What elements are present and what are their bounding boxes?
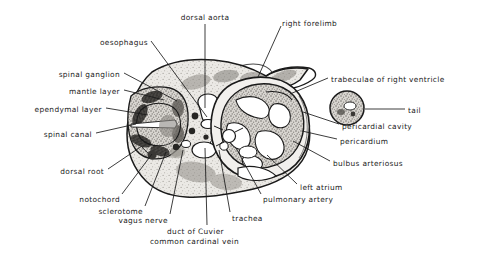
label-ependymal-layer: ependymal layer <box>35 106 102 114</box>
leader-line-left-atrium <box>267 155 297 184</box>
leader-line-spinal-canal <box>96 124 136 133</box>
leader-line-trachea <box>219 150 230 212</box>
label-trabeculae-of-right-ventricle: trabeculae of right ventricle <box>331 76 445 84</box>
leader-line-bulbus-arteriosus <box>293 141 330 161</box>
leader-line-trabeculae-of-right-ventricle <box>290 78 328 94</box>
label-spinal-canal: spinal canal <box>44 131 92 139</box>
label-vagus-nerve: vagus nerve <box>118 217 168 225</box>
leader-line-pulmonary-artery <box>236 148 261 194</box>
leader-line-right-forelimb <box>258 26 281 77</box>
leader-line-vagus-nerve <box>170 150 183 214</box>
leader-line-dorsal-root <box>108 146 142 169</box>
label-pulmonary-artery: pulmonary artery <box>263 196 333 204</box>
label-spinal-ganglion: spinal ganglion <box>59 71 120 79</box>
leader-line-duct-of-cuvier <box>205 148 207 225</box>
label-dorsal-root: dorsal root <box>60 168 104 176</box>
leader-line-sclerotome <box>145 152 166 206</box>
label-mantle-layer: mantle layer <box>69 88 120 96</box>
label-dorsal-aorta: dorsal aorta <box>181 14 230 22</box>
label-oesophagus: oesophagus <box>100 39 148 47</box>
leader-line-oesophagus <box>151 41 207 117</box>
label-sclerotome: sclerotome <box>98 208 143 216</box>
leader-line-mantle-layer <box>124 90 164 100</box>
label-pericardial-cavity: pericardial cavity <box>342 123 412 131</box>
leader-line-notochord <box>122 154 152 194</box>
leader-line-pericardial-cavity <box>303 112 339 124</box>
label-trachea: trachea <box>232 215 263 223</box>
label-pericardium: pericardium <box>340 138 388 146</box>
label-bulbus-arteriosus: bulbus arteriosus <box>333 160 403 168</box>
label-duct-of-cuvier: duct of Cuvier <box>167 228 224 236</box>
leader-line-pericardium <box>302 131 337 139</box>
label-left-atrium: left atrium <box>300 184 343 192</box>
embryo-section-figure: dorsal aortaright forelimboesophagustrab… <box>0 0 479 257</box>
leader-line-ependymal-layer <box>106 108 148 115</box>
label-notochord: notochord <box>79 196 120 204</box>
label-common-cardinal-vein: common cardinal vein <box>150 238 239 246</box>
label-tail: tail <box>408 107 421 115</box>
label-right-forelimb: right forelimb <box>282 20 337 28</box>
